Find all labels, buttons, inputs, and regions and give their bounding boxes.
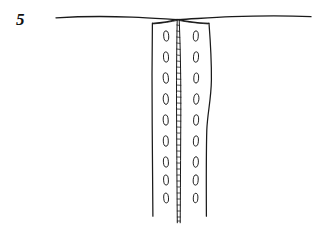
oval-marker bbox=[163, 175, 168, 185]
neck-left-inner-curve bbox=[154, 20, 178, 24]
right-shaft-wall bbox=[206, 23, 211, 216]
oval-marker bbox=[163, 193, 168, 203]
oval-marker bbox=[193, 157, 199, 168]
oval-marker bbox=[193, 93, 199, 104]
funnel-neck-group bbox=[153, 19, 209, 24]
oval-marker bbox=[193, 193, 198, 203]
oval-marker bbox=[163, 73, 169, 84]
oval-marker bbox=[194, 73, 199, 83]
oval-marker bbox=[163, 52, 169, 62]
ground-surface-line-left bbox=[56, 17, 178, 20]
oval-marker bbox=[193, 115, 199, 126]
oval-marker bbox=[163, 93, 169, 104]
oval-marker bbox=[163, 136, 168, 147]
oval-marker bbox=[193, 52, 199, 63]
ground-surface-group bbox=[56, 16, 311, 20]
oval-marker bbox=[163, 157, 169, 168]
ground-surface-line-right bbox=[179, 16, 312, 20]
right-oval-column bbox=[193, 31, 200, 203]
left-shaft-wall bbox=[152, 23, 153, 216]
shaft-walls-group bbox=[152, 23, 211, 216]
central-ladder-band-group bbox=[176, 20, 181, 223]
oval-marker bbox=[163, 115, 169, 126]
left-oval-column bbox=[163, 31, 169, 203]
figure-root: 5 bbox=[0, 0, 328, 232]
oval-marker bbox=[163, 31, 169, 42]
oval-marker bbox=[193, 31, 199, 41]
figure-drawing-canvas bbox=[0, 0, 328, 232]
oval-marker bbox=[193, 136, 199, 147]
oval-marker bbox=[193, 175, 199, 186]
